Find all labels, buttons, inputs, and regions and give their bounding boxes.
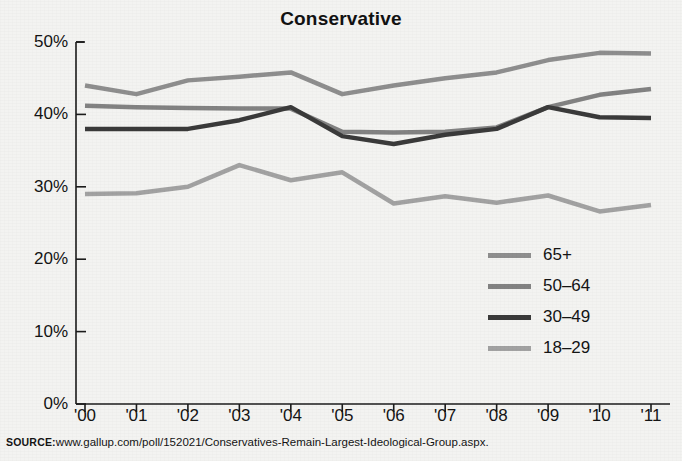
x-tick-label: '00: [62, 406, 108, 426]
chart-legend: 65+50–6430–4918–29: [488, 242, 590, 366]
legend-swatch-icon: [488, 284, 531, 289]
legend-label: 65+: [543, 245, 572, 265]
legend-swatch-icon: [488, 346, 531, 351]
legend-swatch-icon: [488, 253, 531, 258]
x-tick-label: '05: [319, 406, 365, 426]
legend-swatch-icon: [488, 315, 531, 320]
legend-label: 30–49: [543, 307, 590, 327]
x-tick-label: '11: [628, 406, 674, 426]
x-tick-label: '04: [268, 406, 314, 426]
x-tick-label: '02: [165, 406, 211, 426]
legend-item: 50–64: [488, 273, 590, 299]
x-tick-label: '10: [577, 406, 623, 426]
source-label: SOURCE:: [6, 436, 56, 448]
x-tick-label: '01: [113, 406, 159, 426]
legend-label: 18–29: [543, 338, 590, 358]
x-tick-label: '09: [525, 406, 571, 426]
x-tick-label: '07: [422, 406, 468, 426]
source-note: SOURCE:www.gallup.com/poll/152021/Conser…: [6, 436, 489, 448]
legend-item: 18–29: [488, 335, 590, 361]
legend-item: 65+: [488, 242, 590, 268]
legend-label: 50–64: [543, 276, 590, 296]
x-tick-label: '08: [474, 406, 520, 426]
x-tick-label: '03: [216, 406, 262, 426]
chart-figure: ‘ Conservative 0%10%20%30%40%50% '00'01'…: [0, 0, 682, 461]
legend-item: 30–49: [488, 304, 590, 330]
source-url: www.gallup.com/poll/152021/Conservatives…: [56, 436, 489, 448]
x-tick-label: '06: [371, 406, 417, 426]
